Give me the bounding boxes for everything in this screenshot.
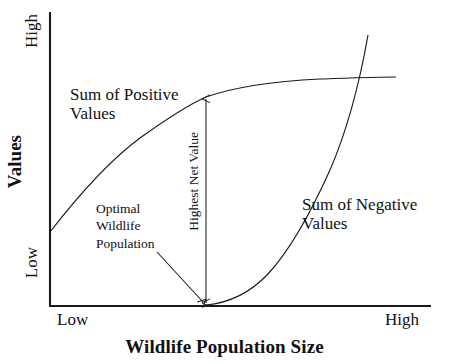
y-axis-title: Values — [4, 135, 25, 188]
highest-net-value-label: Highest Net Value — [186, 132, 201, 231]
optimal-wildlife-population-label: Optimal Wildlife Population — [96, 200, 155, 252]
y-axis-high-tick-label: High — [22, 14, 41, 48]
optimal-population-leader-arrow — [157, 252, 203, 302]
positive-values-curve-label: Sum of Positive Values — [70, 85, 179, 123]
x-axis-low-tick-label: Low — [57, 310, 88, 329]
x-axis-title: Wildlife Population Size — [0, 336, 449, 357]
wildlife-population-value-chart: High Low Low High Values Wildlife Popula… — [0, 0, 449, 364]
negative-values-curve-label: Sum of Negative Values — [302, 195, 417, 233]
negative-values-curve — [206, 35, 368, 305]
y-axis-low-tick-label: Low — [22, 247, 41, 278]
x-axis-high-tick-label: High — [385, 310, 419, 329]
